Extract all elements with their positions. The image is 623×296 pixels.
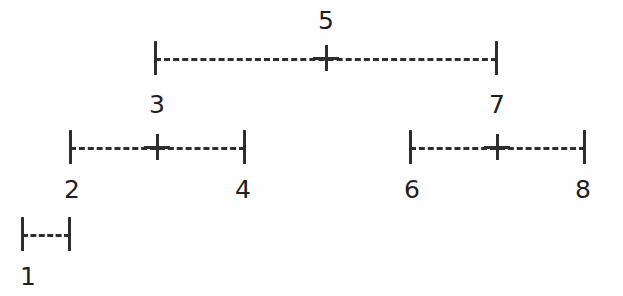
label-node-5: 5 — [318, 8, 334, 33]
right-endpoint-cap-level-3-left — [68, 217, 71, 251]
midpoint-plus-marker-level-2-right — [484, 134, 510, 160]
midpoint-plus-marker-level-1 — [313, 45, 339, 71]
right-endpoint-cap-level-2-left — [243, 130, 246, 164]
label-node-4: 4 — [235, 177, 251, 202]
label-node-1: 1 — [20, 264, 36, 289]
interval-diagram: 5 3 7 2 4 6 8 1 — [0, 0, 623, 296]
left-endpoint-cap-level-2-left — [69, 130, 72, 164]
dashed-rule-level-3-left — [22, 234, 70, 237]
right-endpoint-cap-level-2-right — [583, 130, 586, 164]
midpoint-plus-marker-level-2-left — [144, 134, 170, 160]
label-node-7-upper: 7 — [489, 92, 505, 117]
label-node-3-upper: 3 — [149, 92, 165, 117]
right-endpoint-cap-level-1 — [495, 41, 498, 75]
left-endpoint-cap-level-3-left — [21, 217, 24, 251]
left-endpoint-cap-level-1 — [154, 41, 157, 75]
label-node-2-lower: 2 — [64, 177, 80, 202]
label-node-6: 6 — [404, 177, 420, 202]
label-node-8: 8 — [575, 177, 591, 202]
left-endpoint-cap-level-2-right — [409, 130, 412, 164]
